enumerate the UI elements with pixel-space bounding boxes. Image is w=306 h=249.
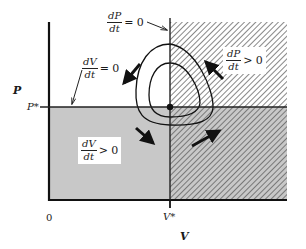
pointer-dpdt-zero [147, 22, 167, 30]
label-dvdt-positive: dVdt> 0 [78, 137, 121, 164]
y-axis-label: P [13, 84, 21, 97]
p-star-label: P* [27, 101, 39, 112]
label-dpdt-positive: dPdt> 0 [223, 47, 266, 74]
origin-label: 0 [46, 212, 52, 223]
equilibrium-point [167, 104, 173, 110]
x-axis-label: V [180, 230, 189, 243]
pointer-dvdt-zero [72, 70, 82, 104]
label-dvdt-zero: dVdt= 0 [82, 57, 119, 80]
v-star-label: V* [163, 211, 175, 222]
region-overlap [170, 107, 287, 200]
label-dpdt-zero: dPdt= 0 [107, 11, 144, 34]
